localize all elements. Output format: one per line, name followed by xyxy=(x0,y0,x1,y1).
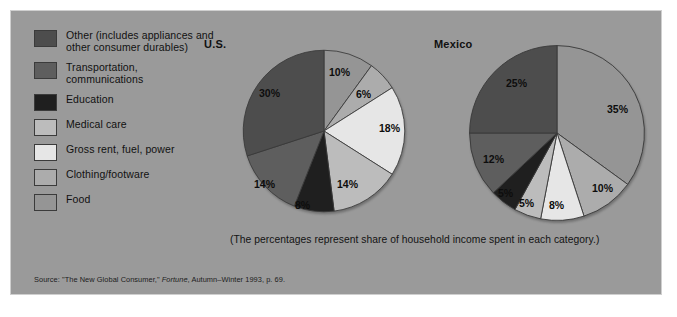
mx-slice-label-education: 5% xyxy=(498,187,513,199)
legend-label-gross-rent: Gross rent, fuel, power xyxy=(66,143,175,155)
legend-item-medical-care: Medical care xyxy=(34,118,214,136)
source-note: Source: "The New Global Consumer," Fortu… xyxy=(34,275,285,284)
legend-item-gross-rent: Gross rent, fuel, power xyxy=(34,143,214,161)
mx-slice-label-transportation: 12% xyxy=(483,153,504,165)
legend: Other (includes appliances and other con… xyxy=(34,29,214,218)
mexico-pie-svg xyxy=(465,41,649,225)
legend-item-food: Food xyxy=(34,193,214,211)
legend-swatch-other xyxy=(34,30,57,47)
legend-label-other: Other (includes appliances and other con… xyxy=(66,29,214,54)
legend-swatch-gross-rent xyxy=(34,144,57,161)
source-publication: Fortune xyxy=(162,275,188,284)
legend-item-education: Education xyxy=(34,93,214,111)
us-slice-label-gross-rent: 18% xyxy=(379,122,400,134)
legend-swatch-education xyxy=(34,94,57,111)
mx-slice-label-gross-rent: 8% xyxy=(549,199,564,211)
us-slice-label-food: 10% xyxy=(329,66,350,78)
mx-slice-label-medical-care: 5% xyxy=(519,197,534,209)
legend-item-other: Other (includes appliances and other con… xyxy=(34,29,214,54)
us-slice-label-clothing: 6% xyxy=(356,88,371,100)
pie-slice xyxy=(470,46,557,133)
legend-item-transportation: Transportation, communications xyxy=(34,61,214,86)
legend-swatch-medical-care xyxy=(34,119,57,136)
legend-item-clothing: Clothing/footware xyxy=(34,168,214,186)
mx-slice-label-other: 25% xyxy=(506,77,527,89)
figure-panel: Other (includes appliances and other con… xyxy=(10,10,662,295)
legend-swatch-food xyxy=(34,194,57,211)
legend-label-clothing: Clothing/footware xyxy=(66,168,149,180)
us-slice-label-education: 8% xyxy=(295,199,310,211)
us-slice-label-medical-care: 14% xyxy=(337,178,358,190)
mx-slice-label-food: 35% xyxy=(607,103,628,115)
legend-swatch-transportation xyxy=(34,62,57,79)
source-prefix: Source: "The New Global Consumer," xyxy=(34,275,162,284)
mx-slice-label-clothing: 10% xyxy=(592,182,613,194)
us-slice-label-other: 30% xyxy=(259,87,280,99)
legend-label-education: Education xyxy=(66,93,114,105)
us-pie-title: U.S. xyxy=(204,38,226,50)
legend-label-transportation: Transportation, communications xyxy=(66,61,214,86)
legend-label-food: Food xyxy=(66,193,90,205)
us-slice-label-transportation: 14% xyxy=(254,178,275,190)
legend-label-medical-care: Medical care xyxy=(66,118,127,130)
legend-swatch-clothing xyxy=(34,169,57,186)
source-suffix: , Autumn–Winter 1993, p. 69. xyxy=(188,275,285,284)
mexico-pie-chart xyxy=(465,41,649,225)
chart-caption: (The percentages represent share of hous… xyxy=(230,234,599,245)
